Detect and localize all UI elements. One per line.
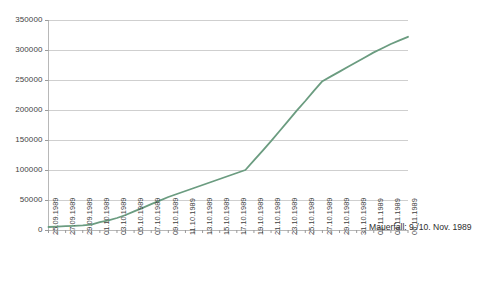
- x-axis-tick-label: 27.09.1989: [69, 198, 76, 236]
- x-axis-tick-label: 01.10.1989: [103, 198, 110, 236]
- x-axis-tick-label: 13.10.1989: [206, 198, 213, 236]
- y-axis-tick-label: 50000: [20, 196, 43, 204]
- y-axis-tick-label: 350000: [15, 16, 42, 24]
- x-axis-tick-label: 31.10.1989: [360, 198, 367, 236]
- y-axis-tick-label: 0: [38, 226, 43, 234]
- x-axis-tick-label: 09.10.1989: [172, 198, 179, 236]
- x-axis-tick-label: 19.10.1989: [257, 198, 264, 236]
- x-axis-tick-label: 07.10.1989: [154, 198, 161, 236]
- y-axis-tick-label: 100000: [15, 166, 42, 174]
- x-axis-tick-label: 25.09.1989: [52, 198, 59, 236]
- x-axis-tick-label: 15.10.1989: [223, 198, 230, 236]
- gridlines: [49, 21, 409, 201]
- x-axis-tick-label: 05.10.1989: [137, 198, 144, 236]
- x-axis-tick-label: 29.09.1989: [86, 198, 93, 236]
- y-axis-tick-label: 150000: [15, 136, 42, 144]
- x-axis-tick-label: 21.10.1989: [274, 198, 281, 236]
- line-chart: 0500001000001500002000002500003000003500…: [0, 0, 491, 291]
- x-axis-tick-label: 27.10.1989: [326, 198, 333, 236]
- y-axis-tick-label: 250000: [15, 76, 42, 84]
- x-axis-tick-label: 29.10.1989: [343, 198, 350, 236]
- x-axis-tick-label: 23.10.1989: [291, 198, 298, 236]
- x-axis-tick-label: 17.10.1989: [240, 198, 247, 236]
- y-axis-tick-label: 300000: [15, 46, 42, 54]
- x-axis-tick-label: 03.10.1989: [120, 198, 127, 236]
- y-axis-tick-label: 200000: [15, 106, 42, 114]
- y-axis-ticks: [45, 21, 49, 231]
- annotation-mauerfall: Mauerfall: 9./10. Nov. 1989: [369, 222, 472, 232]
- x-axis-tick-label: 25.10.1989: [308, 198, 315, 236]
- chart-canvas: [0, 0, 491, 291]
- x-axis-tick-label: 11.10.1989: [189, 198, 196, 235]
